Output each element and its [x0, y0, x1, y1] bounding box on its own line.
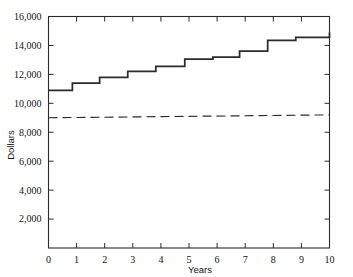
plot-border — [49, 17, 330, 249]
axis-tick-marks — [49, 17, 330, 249]
y-axis-tick-labels: 2,0004,0006,0008,00010,00012,00014,00016… — [14, 11, 42, 225]
x-tick-label: 6 — [215, 254, 220, 265]
y-tick-label: 2,000 — [19, 213, 42, 224]
y-tick-label: 8,000 — [19, 127, 42, 138]
chart-figure: 2,0004,0006,0008,00010,00012,00014,00016… — [0, 0, 353, 277]
y-tick-label: 6,000 — [19, 156, 42, 167]
chart-plot-area: 2,0004,0006,0008,00010,00012,00014,00016… — [0, 0, 353, 277]
x-tick-label: 1 — [74, 254, 79, 265]
x-axis-label: Years — [188, 264, 212, 275]
x-tick-label: 0 — [46, 254, 51, 265]
step-series-line — [49, 32, 330, 90]
x-tick-label: 2 — [102, 254, 107, 265]
x-tick-label: 10 — [325, 254, 335, 265]
y-tick-label: 4,000 — [19, 185, 42, 196]
y-tick-label: 16,000 — [14, 11, 42, 22]
x-tick-label: 4 — [158, 254, 163, 265]
y-tick-label: 12,000 — [14, 69, 42, 80]
clipped-chart-title — [60, 0, 240, 3]
y-axis-label: Dollars — [5, 130, 16, 160]
x-tick-label: 7 — [243, 254, 248, 265]
x-tick-label: 9 — [299, 254, 304, 265]
y-tick-label: 14,000 — [14, 40, 42, 51]
x-tick-label: 3 — [130, 254, 135, 265]
y-tick-label: 10,000 — [14, 98, 42, 109]
dashed-baseline-series — [49, 115, 330, 118]
x-tick-label: 8 — [271, 254, 276, 265]
